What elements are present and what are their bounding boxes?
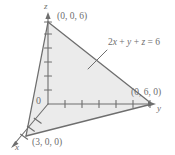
origin-label: 0 — [36, 96, 41, 106]
y-axis-arrowhead — [148, 101, 156, 106]
vertex-label-x-intercept: (3, 0, 0) — [32, 138, 62, 148]
z-axis-arrowhead — [45, 12, 50, 19]
coordinate-plane-diagram: z y x 0 (0, 0, 6) (0, 6, 0) (3, 0, 0) 2x… — [0, 0, 175, 155]
x-axis-label: x — [15, 143, 19, 152]
vertex-label-z-intercept: (0, 0, 6) — [57, 12, 87, 22]
vertex-label-y-intercept: (0, 6, 0) — [131, 88, 161, 98]
equation-constant: 6 — [155, 37, 160, 47]
equation-plus-1: + — [119, 37, 124, 47]
z-axis-label: z — [44, 2, 48, 11]
y-axis-label: y — [157, 104, 161, 113]
plane-equation-label: 2x + y + z = 6 — [108, 38, 160, 48]
diagram-canvas — [0, 0, 175, 155]
